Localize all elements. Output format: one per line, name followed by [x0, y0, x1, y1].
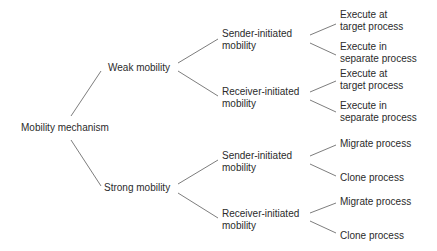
- edge-ws-leaf2: [310, 43, 336, 55]
- node-strong-receiver-line2: mobility: [222, 220, 299, 232]
- edge-weak-sender: [178, 39, 218, 63]
- mobility-mechanism-diagram: Mobility mechanism Weak mobility Strong …: [0, 0, 437, 251]
- edge-root-weak: [71, 71, 101, 116]
- edge-weak-receiver: [178, 71, 218, 96]
- leaf-line1: Execute at: [340, 68, 403, 80]
- node-strong-sender-line2: mobility: [222, 162, 292, 174]
- edge-strong-sender: [178, 160, 218, 184]
- node-strong-receiver: Receiver-initiated mobility: [222, 208, 299, 232]
- node-strong-sender: Sender-initiated mobility: [222, 150, 292, 174]
- node-weak-label: Weak mobility: [108, 62, 170, 74]
- node-weak-mobility: Weak mobility: [108, 62, 170, 74]
- node-weak-sender-line1: Sender-initiated: [222, 28, 292, 40]
- edge-ws-leaf1: [310, 24, 336, 35]
- node-root: Mobility mechanism: [21, 122, 109, 134]
- leaf-weak-receiver-execute-in-separate: Execute in separate process: [340, 100, 417, 124]
- edge-ss-leaf1: [310, 145, 336, 156]
- node-weak-receiver-line2: mobility: [222, 98, 299, 110]
- leaf-line1: Execute in: [340, 100, 417, 112]
- edge-strong-receiver: [178, 193, 218, 218]
- leaf-weak-sender-execute-at-target: Execute at target process: [340, 9, 403, 33]
- leaf-strong-sender-clone: Clone process: [340, 172, 404, 184]
- leaf-strong-sender-migrate: Migrate process: [340, 138, 411, 150]
- edge-sr-leaf2: [310, 221, 336, 233]
- node-strong-sender-line1: Sender-initiated: [222, 150, 292, 162]
- node-strong-mobility: Strong mobility: [104, 182, 170, 194]
- node-weak-receiver: Receiver-initiated mobility: [222, 86, 299, 110]
- leaf-label: Clone process: [340, 230, 404, 242]
- leaf-label: Clone process: [340, 172, 404, 184]
- node-weak-sender-line2: mobility: [222, 40, 292, 52]
- edge-wr-leaf2: [310, 100, 336, 112]
- leaf-line2: target process: [340, 80, 403, 92]
- leaf-weak-sender-execute-in-separate: Execute in separate process: [340, 41, 417, 65]
- leaf-strong-receiver-migrate: Migrate process: [340, 196, 411, 208]
- node-strong-label: Strong mobility: [104, 182, 170, 194]
- leaf-weak-receiver-execute-at-target: Execute at target process: [340, 68, 403, 92]
- edge-root-strong: [71, 140, 101, 186]
- leaf-line2: separate process: [340, 53, 417, 65]
- leaf-label: Migrate process: [340, 196, 411, 208]
- node-strong-receiver-line1: Receiver-initiated: [222, 208, 299, 220]
- leaf-line2: separate process: [340, 112, 417, 124]
- edge-ss-leaf2: [310, 164, 336, 176]
- leaf-strong-receiver-clone: Clone process: [340, 230, 404, 242]
- leaf-line1: Execute in: [340, 41, 417, 53]
- leaf-line1: Execute at: [340, 9, 403, 21]
- node-root-label: Mobility mechanism: [21, 122, 109, 134]
- leaf-label: Migrate process: [340, 138, 411, 150]
- node-weak-sender: Sender-initiated mobility: [222, 28, 292, 52]
- edge-wr-leaf1: [310, 81, 336, 92]
- node-weak-receiver-line1: Receiver-initiated: [222, 86, 299, 98]
- leaf-line2: target process: [340, 21, 403, 33]
- edge-sr-leaf1: [310, 203, 336, 213]
